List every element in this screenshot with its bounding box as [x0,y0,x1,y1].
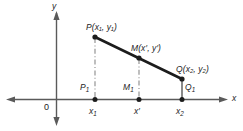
foot-label-p1-sub: 1 [86,86,90,93]
x-axis-right-arrowhead [219,96,228,102]
foot-label-q1-sub: 1 [192,86,196,93]
tick-label-x2-sub: 2 [180,110,184,117]
origin-label: 0 [44,103,49,112]
point-marker-q [179,76,184,81]
midpoint-figure: P(x₁, y₁) M(x′, y′) Q(x₂, y₂) P1 M1 Q1 x… [0,0,243,131]
tick-label-x2: x2 [176,107,184,116]
point-label-p: P(x₁, y₁) [86,23,117,32]
axis-marker-xprime [137,97,142,102]
foot-label-q1-text: Q [185,82,192,92]
tick-label-x1: x1 [89,107,97,116]
point-label-m: M(x′, y′) [131,44,161,53]
foot-label-p1-text: P [80,82,86,92]
axis-marker-x1 [93,97,98,102]
x-axis-left-arrowhead [6,96,15,102]
foot-label-p1: P1 [80,83,89,92]
tick-label-xprime: x′ [134,107,140,116]
y-axis-top-arrowhead [53,11,59,20]
y-axis-bottom-arrowhead [53,117,59,126]
y-axis-label: y [52,2,56,11]
foot-label-m1: M1 [123,83,134,92]
point-marker-p [92,34,97,39]
tick-label-x1-sub: 1 [93,110,97,117]
axis-marker-x2 [180,97,185,102]
point-label-q: Q(x₂, y₂) [176,65,209,74]
foot-label-m1-sub: 1 [130,86,134,93]
point-marker-m [136,55,141,60]
x-axis-label: x [232,94,236,103]
foot-label-q1: Q1 [185,83,195,92]
